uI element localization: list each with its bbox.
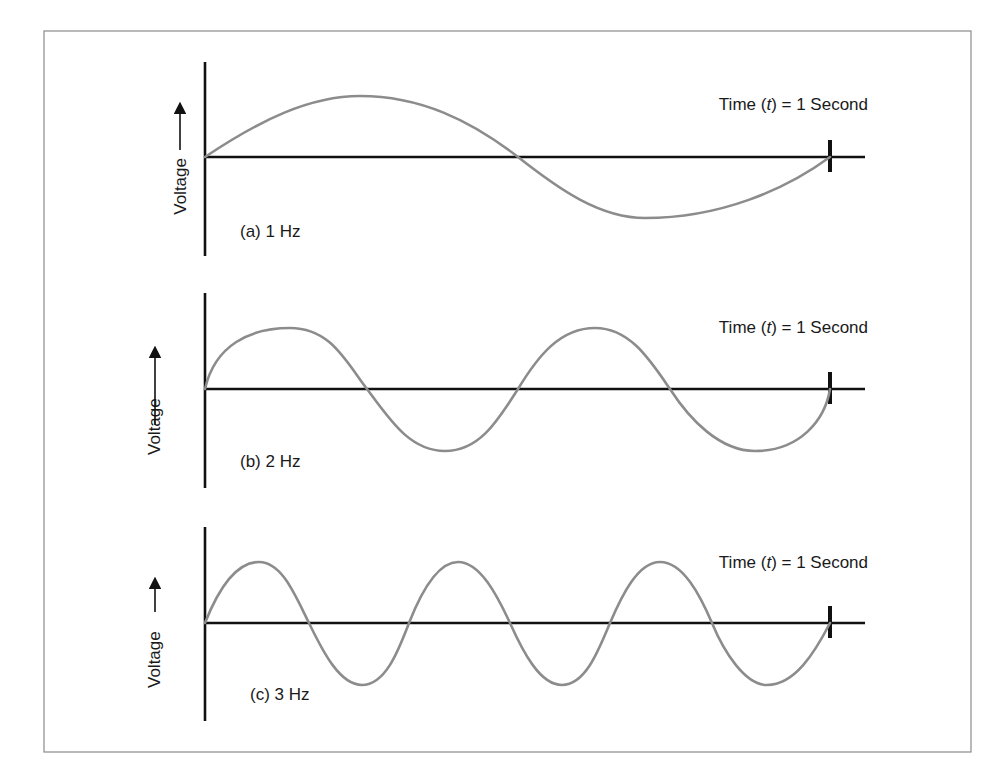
y-axis-label-c: Voltage [145,631,164,688]
time-label-c: Time (t) = 1 Second [719,553,868,572]
svg-text:Voltage: Voltage [145,631,164,688]
panel-label-c: (c) 3 Hz [250,685,310,704]
time-label-a: Time (t) = 1 Second [719,95,868,114]
y-axis-label-a: Voltage [171,108,190,215]
panel-a: Voltage Time (t) = 1 Second (a) 1 Hz [171,62,868,256]
panel-label-b: (b) 2 Hz [240,452,300,471]
time-label-b: Time (t) = 1 Second [719,318,868,337]
frequency-diagram: Voltage Time (t) = 1 Second (a) 1 Hz Vol… [0,0,1002,782]
panel-b: Voltage Time (t) = 1 Second (b) 2 Hz [145,293,868,488]
panel-c: Voltage Time (t) = 1 Second (c) 3 Hz [145,527,868,721]
svg-text:Voltage: Voltage [171,158,190,215]
panel-label-a: (a) 1 Hz [240,222,300,241]
